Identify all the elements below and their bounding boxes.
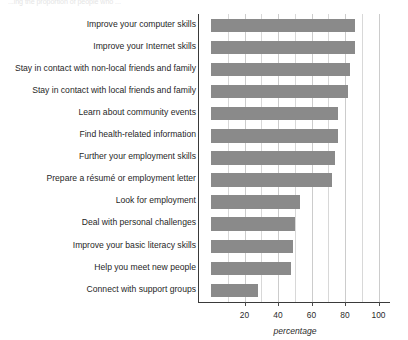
bar [211,217,295,231]
bar-row: Help you meet new people [211,258,379,280]
bar [211,173,332,187]
category-label: Stay in contact with non-local friends a… [15,62,196,75]
bar [211,129,338,143]
y-axis-line [198,14,199,303]
x-tick-label: 80 [340,310,349,320]
plot-area: Improve your computer skillsImprove your… [211,14,379,302]
bar-row: Look for employment [211,191,379,213]
bar [211,85,348,99]
category-label: Improve your computer skills [87,18,196,31]
bar-row: Find health-related information [211,125,379,147]
bar-row: Prepare a résumé or employment letter [211,169,379,191]
x-tick-label: 60 [307,310,316,320]
bar-row: Stay in contact with local friends and f… [211,81,379,103]
category-label: Improve your Internet skills [93,40,196,53]
cut-off-caption: ...ing the proportion of people who ... [8,0,198,6]
bar [211,240,293,254]
bar-row: Improve your Internet skills [211,37,379,59]
bar [211,63,350,77]
category-label: Stay in contact with local friends and f… [32,84,196,97]
bar-row: Deal with personal challenges [211,213,379,235]
category-label: Connect with support groups [87,283,196,296]
category-label: Prepare a résumé or employment letter [46,172,196,185]
x-tick-mark-60 [312,302,313,306]
bar-row: Stay in contact with non-local friends a… [211,59,379,81]
category-label: Find health-related information [79,128,196,141]
bar-row: Improve your basic literacy skills [211,236,379,258]
bar [211,19,355,33]
category-label: Improve your basic literacy skills [73,239,196,252]
bar-row: Improve your computer skills [211,15,379,37]
bar-row: Learn about community events [211,103,379,125]
bar [211,284,258,298]
bar-chart-figure: ...ing the proportion of people who ... … [0,0,408,340]
x-tick-mark-80 [345,302,346,306]
bar [211,107,338,121]
x-tick-mark-40 [278,302,279,306]
bar [211,195,300,209]
x-tick-label: 100 [372,310,386,320]
x-tick-mark-100 [379,302,380,306]
category-label: Learn about community events [78,106,196,119]
bar [211,262,291,276]
x-tick-label: 20 [240,310,249,320]
category-label: Further your employment skills [79,150,196,163]
x-tick-mark-20 [245,302,246,306]
bar [211,151,335,165]
category-label: Look for employment [116,194,196,207]
x-tick-label: 40 [273,310,282,320]
x-axis-line [198,302,390,303]
bar-row: Further your employment skills [211,147,379,169]
bar [211,41,355,55]
category-label: Deal with personal challenges [82,216,196,229]
bar-row: Connect with support groups [211,280,379,302]
category-label: Help you meet new people [94,261,196,274]
x-axis-title: percentage [273,326,316,336]
